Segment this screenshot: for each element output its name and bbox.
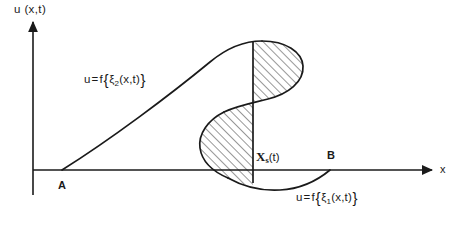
lower-eqn-argument: (x,t) [331, 191, 352, 203]
point-label-a: A [58, 180, 66, 191]
diagram-svg [0, 0, 464, 225]
point-label-b: B [327, 150, 335, 161]
y-axis-label: u (x,t) [14, 4, 46, 16]
upper-eqn-equals: = [92, 73, 99, 85]
lower-eqn-lhs: u [296, 191, 303, 203]
lower-eqn-close-brace: } [352, 189, 357, 206]
hatched-region-group [200, 41, 303, 186]
upper-eqn-close-brace: } [140, 71, 145, 88]
annotation-lower-branch: u=f{ξ1(x,t)} [296, 190, 358, 206]
shock-label-argument: (t) [269, 151, 280, 163]
shock-position-label: Xs(t) [256, 150, 280, 165]
upper-eqn-argument: (x,t) [119, 73, 140, 85]
upper-eqn-lhs: u [84, 73, 91, 85]
x-axis-label: x [440, 164, 446, 175]
lower-eqn-equals: = [304, 191, 311, 203]
upper-eqn-open-brace: { [103, 71, 108, 88]
figure-canvas: u (x,t) x A B Xs(t) u=f{ξ2(x,t)} u=f{ξ1(… [0, 0, 464, 225]
lower-eqn-open-brace: { [315, 189, 320, 206]
annotation-upper-branch: u=f{ξ2(x,t)} [84, 72, 146, 88]
hatched-region-upper-lobe [253, 41, 303, 102]
hatched-region-lower-lobe [200, 102, 253, 186]
shock-label-x: X [256, 149, 265, 164]
